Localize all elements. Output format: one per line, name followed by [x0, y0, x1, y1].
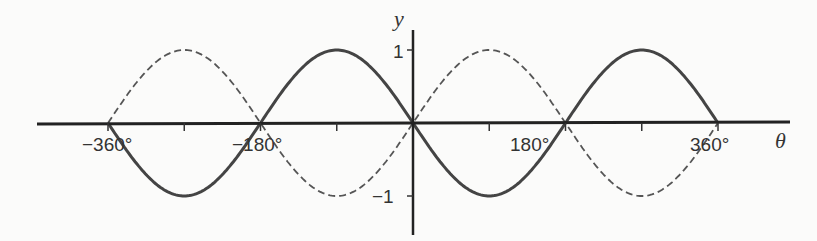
- x-tick-label-neg180: −180°: [232, 135, 282, 154]
- y-axis-label: y: [394, 8, 404, 30]
- plot-area: [0, 0, 817, 241]
- x-tick-label-180: 180°: [510, 135, 549, 154]
- y-tick-label-neg1: −1: [372, 187, 394, 206]
- x-tick-label-360: 360°: [690, 135, 729, 154]
- y-tick-label-1: 1: [393, 42, 404, 61]
- x-axis-label: θ: [775, 130, 786, 152]
- x-tick-label-neg360: −360°: [82, 135, 132, 154]
